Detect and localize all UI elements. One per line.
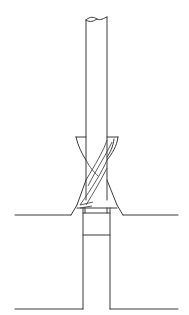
pilot bbox=[83, 208, 110, 235]
countersink-cone bbox=[76, 137, 118, 208]
workpiece bbox=[15, 205, 178, 309]
shank bbox=[86, 17, 107, 200]
countersink-diagram: Countersink cutter with pilot entering a… bbox=[0, 0, 189, 315]
